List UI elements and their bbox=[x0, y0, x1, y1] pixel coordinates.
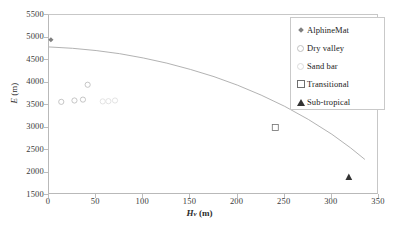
data-point-marker bbox=[106, 99, 111, 104]
x-tick-label: 150 bbox=[172, 197, 206, 206]
legend-item-label: AlphineMat bbox=[307, 25, 349, 35]
legend-item[interactable]: Sub-tropical bbox=[295, 93, 382, 111]
data-point-marker bbox=[48, 37, 53, 42]
y-axis-tick-labels: 150020002500300035004000450050005500 bbox=[0, 0, 44, 225]
legend-marker-shape bbox=[297, 45, 304, 52]
x-tick-mark bbox=[189, 194, 190, 198]
legend-marker-shape bbox=[297, 63, 304, 70]
x-tick-label: 250 bbox=[267, 197, 301, 206]
open-circle-light-icon bbox=[295, 61, 306, 72]
x-axis-unit: (m) bbox=[197, 208, 213, 218]
data-point-marker bbox=[345, 174, 352, 180]
y-tick-mark bbox=[44, 172, 48, 173]
legend-item[interactable]: Transitional bbox=[295, 75, 382, 93]
x-tick-mark bbox=[48, 194, 49, 198]
filled-triangle-icon bbox=[295, 97, 306, 108]
x-tick-label: 200 bbox=[220, 197, 254, 206]
legend-marker-shape bbox=[297, 80, 305, 88]
legend-marker-shape bbox=[298, 27, 304, 33]
x-axis-title: Hv (m) bbox=[0, 208, 399, 218]
legend-item-label: Transitional bbox=[307, 79, 349, 89]
x-tick-label: 350 bbox=[361, 197, 395, 206]
legend-item-label: Dry valley bbox=[307, 43, 344, 53]
legend-item-label: Sub-tropical bbox=[307, 97, 350, 107]
y-axis-symbol: E bbox=[9, 98, 19, 104]
legend-item[interactable]: AlphineMat bbox=[295, 21, 382, 39]
y-tick-mark bbox=[44, 59, 48, 60]
x-tick-label: 100 bbox=[125, 197, 159, 206]
y-tick-mark bbox=[44, 127, 48, 128]
data-point-marker bbox=[100, 99, 105, 104]
data-point-marker bbox=[85, 82, 90, 87]
y-tick-mark bbox=[44, 149, 48, 150]
y-tick-label: 2500 bbox=[4, 145, 44, 154]
y-tick-mark bbox=[44, 104, 48, 105]
y-tick-label: 5000 bbox=[4, 32, 44, 41]
x-tick-mark bbox=[95, 194, 96, 198]
x-tick-label: 300 bbox=[314, 197, 348, 206]
x-tick-mark bbox=[237, 194, 238, 198]
data-point-marker bbox=[72, 98, 77, 103]
chart-legend: AlphineMatDry valleySand barTransitional… bbox=[290, 17, 385, 110]
data-point-marker bbox=[59, 99, 64, 104]
legend-item[interactable]: Sand bar bbox=[295, 57, 382, 75]
scatter-chart-figure: 150020002500300035004000450050005500 E (… bbox=[0, 0, 399, 225]
y-tick-mark bbox=[44, 82, 48, 83]
y-tick-mark bbox=[44, 14, 48, 15]
legend-item[interactable]: Dry valley bbox=[295, 39, 382, 57]
x-tick-mark bbox=[284, 194, 285, 198]
y-tick-label: 5500 bbox=[4, 10, 44, 19]
x-tick-label: 0 bbox=[31, 197, 65, 206]
y-tick-label: 2000 bbox=[4, 167, 44, 176]
data-point-marker bbox=[80, 97, 85, 102]
y-axis-unit: (m) bbox=[9, 83, 19, 98]
open-square-icon bbox=[295, 79, 306, 90]
x-tick-mark bbox=[331, 194, 332, 198]
y-tick-mark bbox=[44, 37, 48, 38]
legend-item-label: Sand bar bbox=[307, 61, 338, 71]
y-tick-label: 3000 bbox=[4, 122, 44, 131]
x-axis-symbol: H bbox=[187, 208, 194, 218]
legend-marker-shape bbox=[297, 99, 305, 106]
x-tick-mark bbox=[142, 194, 143, 198]
x-tick-mark bbox=[378, 194, 379, 198]
open-circle-icon bbox=[295, 43, 306, 54]
data-point-marker bbox=[112, 98, 117, 103]
x-tick-label: 50 bbox=[78, 197, 112, 206]
data-point-marker bbox=[272, 125, 278, 131]
y-axis-title: E (m) bbox=[9, 63, 19, 123]
filled-diamond-icon bbox=[295, 25, 306, 36]
